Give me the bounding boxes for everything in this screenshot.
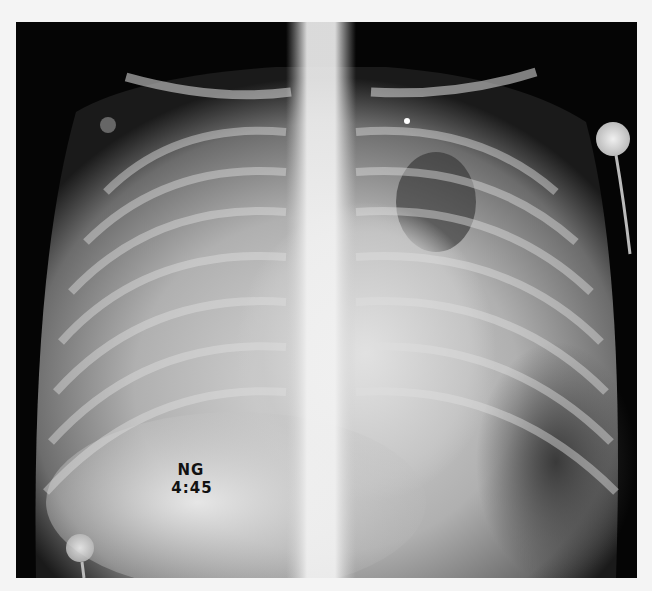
xray-image: NG 4:45 [16, 22, 637, 578]
annotation-ng: NG [171, 462, 211, 479]
chest-radiograph [16, 22, 637, 578]
annotation-time: 4:45 [162, 480, 222, 497]
